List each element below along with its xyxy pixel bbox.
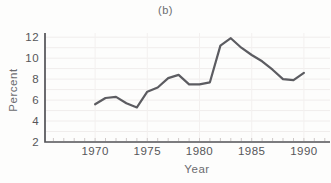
y-tick-label: 12 [25,31,39,43]
axes [45,33,330,142]
y-tick-label: 10 [25,52,39,64]
y-tick-label: 6 [32,94,39,106]
x-tick-label: 1975 [134,145,161,157]
x-tick-label: 1980 [186,145,213,157]
chart-title: (b) [0,4,331,16]
x-axis-label: Year [184,163,210,175]
y-tick-label: 2 [32,136,39,148]
chart-figure: (b) Percent 2468101219701975198019851990… [0,0,331,183]
y-tick-label: 4 [32,115,39,127]
x-tick-label: 1990 [290,145,317,157]
y-tick-label: 8 [32,73,39,85]
x-tick-label: 1985 [238,145,265,157]
line-chart-canvas: 2468101219701975198019851990 [0,0,331,183]
y-axis-label: Percent [7,68,19,112]
x-tick-label: 1970 [81,145,108,157]
